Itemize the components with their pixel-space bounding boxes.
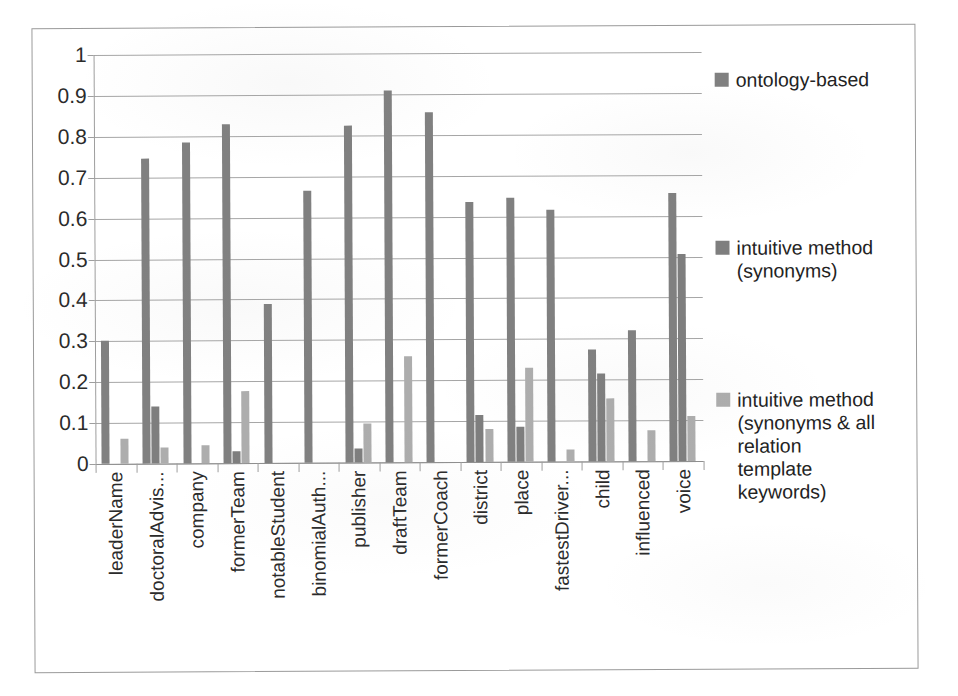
bar: [466, 202, 475, 462]
y-axis-tick-label: 0.5: [58, 248, 87, 269]
bar: [678, 254, 687, 461]
x-axis-label-slot: influenced: [623, 469, 664, 654]
bar: [151, 406, 159, 463]
x-axis-category-labels: leaderNamedoctoralAdvis...companyformerT…: [96, 469, 705, 662]
y-axis-tick-label: 0.2: [59, 371, 88, 392]
plot-area: [94, 52, 704, 464]
bar: [485, 429, 493, 462]
x-axis-category-label: notableStudent: [268, 471, 288, 599]
legend-label: intuitive method (synonyms): [736, 236, 873, 283]
bar: [506, 198, 515, 462]
bar: [303, 191, 312, 463]
x-axis-category-label: formerCoach: [431, 470, 451, 580]
bar: [476, 415, 484, 462]
bar: [566, 449, 574, 461]
bar: [201, 445, 209, 463]
x-axis-label-slot: voice: [663, 469, 704, 654]
bar: [516, 427, 524, 462]
y-axis-tick-label: 0.9: [58, 85, 87, 106]
x-axis-category-label: draftTeam: [390, 470, 409, 555]
bar-series-container: [94, 52, 704, 464]
bar: [242, 392, 250, 464]
y-axis-labels: 10.90.80.70.60.50.40.30.20.10: [0, 55, 89, 464]
bar: [222, 124, 232, 464]
x-axis-label-slot: doctoralAdvis...: [136, 471, 177, 656]
bar: [597, 373, 605, 461]
x-axis-tick: [704, 461, 705, 470]
x-axis-category-label: binomialAuth...: [309, 471, 329, 597]
x-axis-label-slot: binomialAuth...: [298, 471, 339, 656]
bar: [182, 142, 192, 463]
y-axis-tick-label: 1: [75, 44, 87, 65]
y-axis-tick-label: 0.4: [59, 289, 88, 310]
bar: [263, 304, 272, 464]
x-axis-label-slot: fastestDriver...: [541, 469, 582, 654]
x-axis-label-slot: district: [460, 470, 501, 655]
bar: [628, 330, 637, 461]
bar: [668, 193, 677, 461]
y-axis-tick-label: 0.6: [58, 208, 87, 229]
x-axis-category-label: voice: [674, 469, 693, 513]
x-axis-category-label: formerTeam: [228, 471, 247, 572]
x-axis-category-label: district: [471, 470, 490, 525]
x-axis-category-label: company: [187, 471, 206, 548]
x-axis-label-slot: place: [501, 470, 542, 655]
bar: [404, 356, 413, 462]
x-axis-category-label: doctoralAdvis...: [147, 472, 167, 602]
x-axis-label-slot: company: [177, 471, 218, 656]
x-axis-label-slot: draftTeam: [379, 470, 420, 655]
legend-label: ontology-based: [736, 68, 869, 92]
x-axis-label-slot: child: [582, 469, 623, 654]
legend-entry: intuitive method (synonyms): [715, 236, 873, 283]
bar: [363, 424, 371, 463]
figure: 10.90.80.70.60.50.40.30.20.10 leaderName…: [0, 0, 958, 696]
x-axis-category-label: child: [593, 469, 612, 508]
bar: [606, 398, 614, 461]
x-axis-label-slot: leaderName: [96, 472, 137, 657]
bar: [647, 430, 655, 461]
bar: [344, 125, 354, 462]
bar: [588, 349, 597, 462]
bar: [161, 447, 169, 463]
x-axis-category-label: place: [512, 470, 531, 516]
x-axis-label-slot: notableStudent: [258, 471, 299, 656]
bar: [425, 113, 435, 463]
x-axis-label-slot: formerCoach: [420, 470, 461, 655]
legend-label: intuitive method (synonyms & all relatio…: [737, 388, 875, 504]
bar: [233, 451, 241, 463]
bar: [141, 159, 150, 464]
y-axis-tick-label: 0.3: [59, 330, 88, 351]
x-axis-label-slot: publisher: [339, 470, 380, 655]
y-axis-tick-label: 0.1: [59, 412, 88, 433]
bar: [354, 448, 362, 462]
x-axis-category-label: leaderName: [106, 472, 126, 576]
y-axis-tick-label: 0: [77, 453, 89, 474]
y-axis-tick-label: 0.7: [58, 167, 87, 188]
bar: [101, 341, 110, 464]
legend-entry: ontology-based: [715, 68, 869, 92]
x-axis-category-label: publisher: [350, 471, 369, 548]
legend-swatch-icon: [716, 393, 730, 407]
bar: [525, 368, 533, 462]
x-axis-label-slot: formerTeam: [217, 471, 258, 656]
bar: [547, 210, 556, 462]
legend-swatch-icon: [715, 73, 729, 87]
x-axis-category-label: influenced: [633, 469, 652, 556]
legend-swatch-icon: [715, 241, 729, 255]
bar: [120, 439, 128, 464]
y-axis-tick-label: 0.8: [58, 126, 87, 147]
legend-entry: intuitive method (synonyms & all relatio…: [716, 388, 875, 504]
bar: [688, 416, 696, 461]
x-axis-category-label: fastestDriver...: [552, 470, 572, 592]
bar: [384, 90, 394, 462]
